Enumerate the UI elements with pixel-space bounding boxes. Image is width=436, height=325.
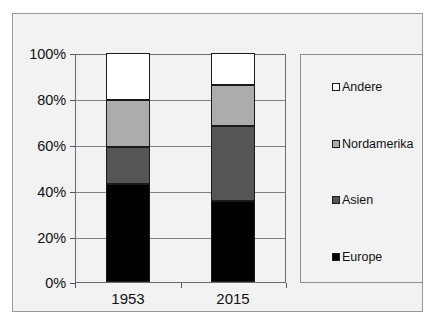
xtick-label-1953: 1953 bbox=[93, 290, 163, 307]
legend-item-andere[interactable]: Andere bbox=[332, 81, 382, 94]
segment-2015-nordamerika[interactable] bbox=[211, 85, 255, 126]
legend-item-europe[interactable]: Europe bbox=[332, 251, 382, 264]
legend-swatch-asien-icon bbox=[332, 196, 340, 204]
segment-1953-asien[interactable] bbox=[106, 147, 150, 184]
bar-2015[interactable] bbox=[211, 53, 255, 282]
legend-label-andere: Andere bbox=[342, 81, 382, 94]
ytick-mark-80 bbox=[70, 100, 75, 101]
segment-2015-andere[interactable] bbox=[211, 53, 255, 85]
legend: Andere Nordamerika Asien Europe bbox=[300, 54, 423, 283]
ytick-mark-100 bbox=[70, 54, 75, 55]
ytick-label-100: 100% bbox=[18, 47, 66, 62]
ytick-mark-40 bbox=[70, 192, 75, 193]
plot-area bbox=[75, 54, 286, 283]
legend-item-nordamerika[interactable]: Nordamerika bbox=[332, 138, 414, 151]
segment-1953-nordamerika[interactable] bbox=[106, 100, 150, 147]
xtick-mark-mid bbox=[181, 283, 182, 288]
chart-frame: 100% 80% 60% 40% 20% 0% 1953 2015 Andere… bbox=[12, 13, 423, 312]
ytick-label-60: 60% bbox=[18, 139, 66, 154]
bar-1953[interactable] bbox=[106, 53, 150, 282]
segment-1953-europe[interactable] bbox=[106, 184, 150, 282]
xtick-label-2015: 2015 bbox=[198, 290, 268, 307]
legend-label-nordamerika: Nordamerika bbox=[342, 138, 414, 151]
xtick-mark-left bbox=[75, 283, 76, 288]
segment-2015-europe[interactable] bbox=[211, 201, 255, 282]
ytick-mark-60 bbox=[70, 146, 75, 147]
legend-swatch-europe-icon bbox=[332, 253, 340, 261]
legend-label-europe: Europe bbox=[342, 251, 382, 264]
ytick-label-20: 20% bbox=[18, 231, 66, 246]
segment-2015-asien[interactable] bbox=[211, 126, 255, 201]
ytick-label-80: 80% bbox=[18, 93, 66, 108]
legend-swatch-nordamerika-icon bbox=[332, 140, 340, 148]
legend-swatch-andere-icon bbox=[332, 83, 340, 91]
ytick-label-0: 0% bbox=[18, 276, 66, 291]
segment-1953-andere[interactable] bbox=[106, 53, 150, 100]
ytick-mark-20 bbox=[70, 238, 75, 239]
legend-item-asien[interactable]: Asien bbox=[332, 194, 373, 207]
ytick-label-40: 40% bbox=[18, 185, 66, 200]
xtick-mark-right bbox=[286, 283, 287, 288]
stacked-bar-chart: 100% 80% 60% 40% 20% 0% 1953 2015 Andere… bbox=[0, 0, 436, 325]
legend-label-asien: Asien bbox=[342, 194, 373, 207]
